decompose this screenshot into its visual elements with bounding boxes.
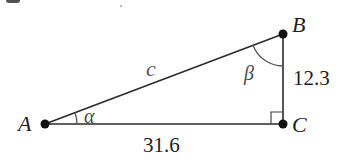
vertex-label-b: B bbox=[292, 14, 305, 36]
vertex-label-c: C bbox=[292, 114, 307, 136]
alpha-arc-icon bbox=[75, 113, 77, 124]
side-bc-length: 12.3 bbox=[293, 68, 330, 89]
vertex-c-dot-icon bbox=[279, 120, 288, 129]
beta-arc-icon bbox=[253, 45, 283, 66]
angle-alpha-label: α bbox=[84, 106, 95, 126]
angle-beta-label: β bbox=[244, 63, 254, 83]
side-ac-length: 31.6 bbox=[143, 135, 180, 156]
triangle-diagram: A B C c 12.3 31.6 α β bbox=[0, 0, 343, 167]
hypotenuse-label: c bbox=[146, 58, 156, 80]
vertex-a-dot-icon bbox=[41, 120, 50, 129]
vertex-label-a: A bbox=[18, 113, 31, 135]
vertex-b-dot-icon bbox=[279, 30, 288, 39]
